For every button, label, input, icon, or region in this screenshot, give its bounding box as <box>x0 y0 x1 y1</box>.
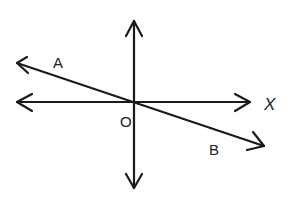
diagram-canvas: A O B X <box>0 0 296 199</box>
label-o: O <box>120 113 132 130</box>
label-a: A <box>53 54 63 71</box>
label-x: X <box>263 95 276 114</box>
label-b: B <box>209 141 219 158</box>
